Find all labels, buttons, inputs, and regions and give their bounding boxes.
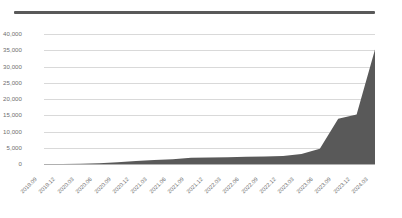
x-axis-tick-label: 2019.09 — [20, 177, 38, 195]
x-axis-tick-group: 2019.092019.122020.032020.062020.092020.… — [44, 167, 375, 217]
x-axis-tick-label: 2021.06 — [149, 177, 167, 195]
y-axis-tick-label: 30,000 — [0, 63, 22, 69]
gridline — [44, 34, 375, 35]
y-axis-tick-label: 5,000 — [0, 145, 22, 151]
x-axis-tick-label: 2021.09 — [167, 177, 185, 195]
chart-screenshot: 2019.092019.122020.032020.062020.092020.… — [0, 0, 402, 218]
y-axis-tick-label: 0 — [0, 161, 22, 167]
x-axis-tick-label: 2023.09 — [314, 177, 332, 195]
y-axis-tick-label: 20,000 — [0, 96, 22, 102]
x-axis-tick-label: 2020.06 — [75, 177, 93, 195]
y-axis-tick-label: 35,000 — [0, 47, 22, 53]
x-axis-tick-label: 2021.12 — [185, 177, 203, 195]
y-axis-tick-label: 15,000 — [0, 112, 22, 118]
x-axis-tick-label: 2021.03 — [130, 177, 148, 195]
y-axis-tick-label: 10,000 — [0, 128, 22, 134]
gridline — [44, 50, 375, 51]
x-axis-tick-label: 2022.03 — [204, 177, 222, 195]
x-axis-tick-label: 2022.09 — [241, 177, 259, 195]
x-axis-tick-label: 2020.09 — [94, 177, 112, 195]
area-chart: 2019.092019.122020.032020.062020.092020.… — [0, 26, 402, 218]
x-axis-tick-label: 2022.06 — [222, 177, 240, 195]
area-series-path — [44, 50, 375, 164]
y-axis-tick-label: 25,000 — [0, 80, 22, 86]
x-axis-tick-label: 2024.03 — [351, 177, 369, 195]
x-axis-tick-label: 2020.12 — [112, 177, 130, 195]
y-axis-tick-label: 40,000 — [0, 31, 22, 37]
x-axis-tick-label: 2019.12 — [38, 177, 56, 195]
x-axis-tick-label: 2023.03 — [277, 177, 295, 195]
x-axis-tick-label: 2022.12 — [259, 177, 277, 195]
x-axis-tick-label: 2023.12 — [333, 177, 351, 195]
x-axis-tick-label: 2023.06 — [296, 177, 314, 195]
x-axis-tick-label: 2020.03 — [57, 177, 75, 195]
series-area-2024-03 — [44, 60, 375, 165]
header-rule — [14, 11, 375, 14]
